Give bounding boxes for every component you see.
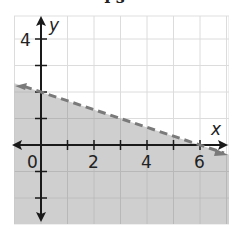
x-tick-label-4: 4 [141, 152, 152, 172]
y-axis-label: y [48, 15, 60, 35]
x-tick-label-0: 0 [27, 152, 38, 172]
y-tick-label-4: 4 [20, 30, 31, 50]
inequality-graph: 02464yx [0, 0, 229, 229]
x-tick-label-6: 6 [194, 152, 205, 172]
x-tick-label-2: 2 [88, 152, 99, 172]
x-axis-label: x [210, 119, 222, 139]
